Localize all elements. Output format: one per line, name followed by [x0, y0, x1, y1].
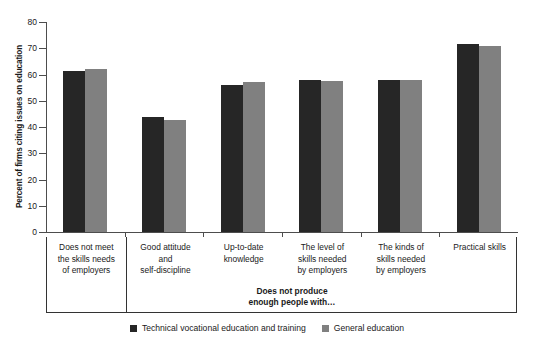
bar [321, 81, 343, 232]
bar-chart: Percent of firms citing issues on educat… [0, 0, 534, 344]
plot-area: 01020304050607080 [46, 22, 518, 232]
legend-swatch [322, 325, 329, 332]
category-label-line: self-discipline [127, 265, 205, 277]
bar [457, 44, 479, 232]
y-axis-tick-label: 60 [11, 71, 37, 80]
bar-group [125, 22, 204, 232]
bar [299, 80, 321, 232]
y-axis-tick-label: 10 [11, 202, 37, 211]
bar-group [282, 22, 361, 232]
category-label-line: Does not meet [47, 242, 126, 254]
bar [63, 71, 85, 232]
category-label: The kinds ofskills neededby employers [362, 237, 441, 313]
category-label-line: Practical skills [440, 242, 519, 254]
legend-label: General education [334, 323, 404, 333]
bar [142, 117, 164, 233]
legend-item[interactable]: General education [322, 323, 404, 333]
category-label-line: by employers [283, 265, 362, 277]
x-axis-sub-label-line2: enough people with… [212, 297, 372, 308]
category-label-line: skills needed [283, 254, 362, 266]
bar [85, 69, 107, 232]
category-label: Good attitudeandself-discipline [126, 237, 205, 313]
category-label-line: skills needed [362, 254, 441, 266]
bar-group [203, 22, 282, 232]
x-axis-sub-label-line1: Does not produce [212, 286, 372, 297]
chart-legend: Technical vocational education and train… [0, 323, 534, 333]
y-axis-tick-label: 20 [11, 176, 37, 185]
y-axis-tick-label: 0 [11, 228, 37, 237]
category-label-line: of employers [47, 265, 126, 277]
y-axis-tick [39, 22, 46, 23]
y-axis-tick-label: 80 [11, 18, 37, 27]
category-label-line: by employers [362, 265, 441, 277]
y-axis-tick-label: 40 [11, 123, 37, 132]
bar-series-container [46, 22, 518, 232]
y-axis-tick [39, 232, 46, 233]
bar-group [361, 22, 440, 232]
legend-label: Technical vocational education and train… [142, 323, 306, 333]
y-axis-tick [39, 75, 46, 76]
bar [243, 82, 265, 232]
bar-group [46, 22, 125, 232]
y-axis-tick-label: 50 [11, 97, 37, 106]
y-axis-tick-label: 30 [11, 149, 37, 158]
category-label-line: The kinds of [362, 242, 441, 254]
legend-swatch [130, 325, 137, 332]
bar [378, 80, 400, 232]
y-axis-tick-label: 70 [11, 44, 37, 53]
bar [164, 120, 186, 232]
legend-item[interactable]: Technical vocational education and train… [130, 323, 306, 333]
category-label-line: knowledge [204, 254, 283, 266]
category-label-line: the skills needs [47, 254, 126, 266]
y-axis-tick [39, 48, 46, 49]
x-axis-sub-label: Does not produce enough people with… [212, 286, 372, 308]
category-label-line: and [127, 254, 205, 266]
bar [400, 80, 422, 232]
category-label: Practical skills [440, 237, 519, 313]
y-axis-tick [39, 206, 46, 207]
category-label-line: The level of [283, 242, 362, 254]
y-axis-tick [39, 180, 46, 181]
y-axis-tick [39, 153, 46, 154]
category-label-line: Good attitude [127, 242, 205, 254]
category-label-line: Up-to-date [204, 242, 283, 254]
bar-group [439, 22, 518, 232]
y-axis-tick [39, 101, 46, 102]
bar [479, 46, 501, 232]
y-axis-tick [39, 127, 46, 128]
category-label: Does not meetthe skills needsof employer… [47, 237, 126, 313]
bar [221, 85, 243, 232]
